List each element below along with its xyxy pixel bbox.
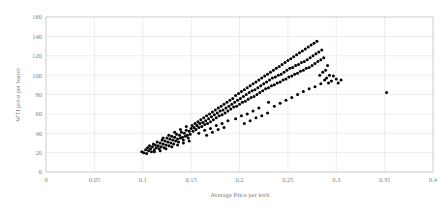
y-tick-label: 100 <box>32 72 42 79</box>
scatter-point <box>302 69 305 72</box>
scatter-point <box>264 87 267 90</box>
scatter-point <box>241 101 244 104</box>
scatter-point <box>278 65 281 68</box>
scatter-point <box>308 66 311 69</box>
x-tick-label: 0.05 <box>89 176 100 183</box>
scatter-point <box>208 112 211 115</box>
scatter-point <box>199 118 202 121</box>
scatter-point <box>242 95 245 98</box>
scatter-point <box>176 143 179 146</box>
scatter-point <box>272 69 275 72</box>
scatter-point <box>162 142 165 145</box>
x-axis-title: Average Price per kwh <box>210 191 270 198</box>
scatter-point <box>254 80 257 83</box>
scatter-point <box>156 140 159 143</box>
scatter-point <box>286 59 289 62</box>
scatter-point <box>173 131 176 134</box>
scatter-point <box>213 113 216 116</box>
scatter-point <box>229 108 232 111</box>
scatter-point <box>237 92 240 95</box>
scatter-point <box>187 137 190 140</box>
scatter-point <box>335 78 338 81</box>
scatter-point <box>312 42 315 45</box>
scatter-point <box>225 101 228 104</box>
scatter-point <box>298 51 301 54</box>
scatter-point <box>173 136 176 139</box>
scatter-point <box>221 122 224 125</box>
scatter-point <box>340 78 343 81</box>
scatter-point <box>167 144 170 147</box>
scatter-point <box>310 44 313 47</box>
scatter-point <box>267 101 270 104</box>
scatter-point <box>217 128 220 131</box>
scatter-point <box>326 64 329 67</box>
scatter-point <box>320 48 323 51</box>
scatter-point <box>211 110 214 113</box>
scatter-point <box>202 116 205 119</box>
scatter-point <box>290 75 293 78</box>
scatter-point <box>314 52 317 55</box>
chart-canvas: 020406080100120140160 00.050.10.150.20.2… <box>0 0 448 212</box>
scatter-point <box>188 130 191 133</box>
scatter-point <box>295 53 298 56</box>
scatter-point <box>261 89 264 92</box>
x-tick-label: 0.15 <box>185 176 196 183</box>
y-tick-label: 0 <box>39 168 42 175</box>
scatter-point <box>142 151 145 154</box>
scatter-point <box>230 103 233 106</box>
scatter-point <box>281 63 284 66</box>
scatter-point <box>313 85 316 88</box>
scatter-point <box>164 140 167 143</box>
scatter-point <box>302 90 305 93</box>
scatter-point <box>275 67 278 70</box>
scatter-point <box>209 127 212 130</box>
scatter-point <box>148 144 151 147</box>
scatter-point <box>273 83 276 86</box>
scatter-point <box>154 143 157 146</box>
scatter-point <box>337 81 340 84</box>
scatter-point <box>297 63 300 66</box>
scatter-point <box>252 109 255 112</box>
scatter-point <box>181 136 184 139</box>
scatter-point <box>300 61 303 64</box>
y-tick-label: 120 <box>32 52 42 59</box>
x-tick-label: 0.3 <box>332 176 340 183</box>
scatter-point <box>226 109 229 112</box>
scatter-point <box>228 99 231 102</box>
scatter-point <box>178 134 181 137</box>
scatter-point <box>145 152 148 155</box>
scatter-point <box>317 50 320 53</box>
scatter-point <box>258 91 261 94</box>
scatter-point <box>231 97 234 100</box>
scatter-point <box>279 80 282 83</box>
scatter-point <box>271 77 274 80</box>
scatter-point <box>245 93 248 96</box>
scatter-point <box>205 134 208 137</box>
x-tick-label: 0.2 <box>235 176 243 183</box>
x-tick-label: 0.4 <box>429 176 438 183</box>
scatter-point <box>257 107 260 110</box>
scatter-point <box>203 129 206 132</box>
scatter-point <box>167 134 170 137</box>
scatter-point <box>234 117 237 120</box>
scatter-point <box>215 124 218 127</box>
scatter-point <box>256 86 259 89</box>
x-tick-label: 0.25 <box>282 176 293 183</box>
scatter-point <box>253 95 256 98</box>
scatter-point <box>319 58 322 61</box>
scatter-point <box>194 128 197 131</box>
scatter-point <box>307 46 310 49</box>
scatter-point <box>182 141 185 144</box>
scatter-point <box>283 71 286 74</box>
scatter-point <box>164 147 167 150</box>
scatter-point <box>332 75 335 78</box>
scatter-point <box>226 119 229 122</box>
scatter-point <box>223 126 226 129</box>
scatter-point <box>180 131 183 134</box>
scatter-point <box>279 102 282 105</box>
scatter-point <box>200 125 203 128</box>
x-tick-label: 0.1 <box>139 176 147 183</box>
scatter-point <box>299 70 302 73</box>
scatter-point <box>285 69 288 72</box>
scatter-point <box>318 74 321 77</box>
